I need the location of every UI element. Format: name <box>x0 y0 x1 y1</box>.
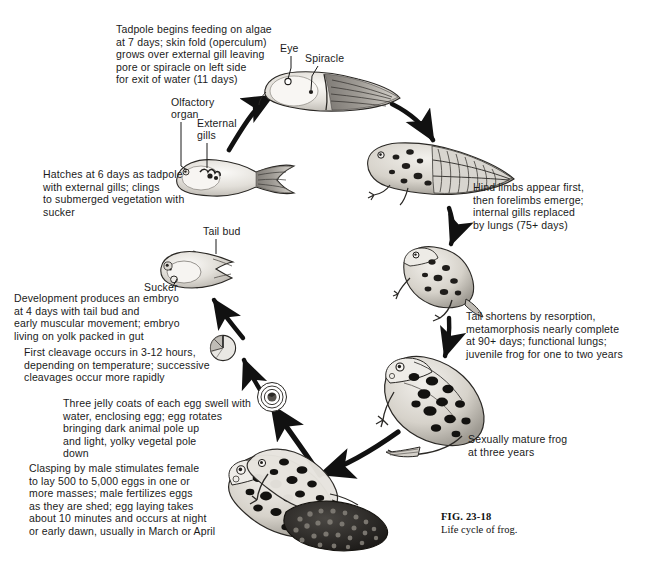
caption-hatchling-tadpole: Hatches at 6 days as tadpole with extern… <box>43 168 233 218</box>
caption-amplexus: Clasping by male stimulates female to la… <box>29 462 259 538</box>
figure-number: FIG. 23-18 <box>441 510 621 523</box>
label-tail-bud: Tail bud <box>203 225 240 237</box>
caption-metamorphosis: Tail shortens by resorption, metamorphos… <box>466 310 656 360</box>
caption-jelly-coats: Three jelly coats of each egg swell with… <box>63 397 283 460</box>
caption-cleavage: First cleavage occurs in 3-12 hours, dep… <box>24 346 239 384</box>
figure-caption: FIG. 23-18 Life cycle of frog. <box>441 510 621 536</box>
label-eye: Eye <box>280 42 299 54</box>
caption-mature-frog: Sexually mature frog at three years <box>468 433 628 458</box>
caption-hind-limbs: Hind limbs appear first, then forelimbs … <box>473 181 653 231</box>
figure-page: Tadpole begins feeding on algae at 7 day… <box>0 0 659 563</box>
figure-caption-text: Life cycle of frog. <box>441 523 621 536</box>
label-spiracle: Spiracle <box>305 52 344 64</box>
caption-embryo: Development produces an embryo at 4 days… <box>14 292 224 342</box>
label-external-gills: External gills <box>197 117 237 142</box>
